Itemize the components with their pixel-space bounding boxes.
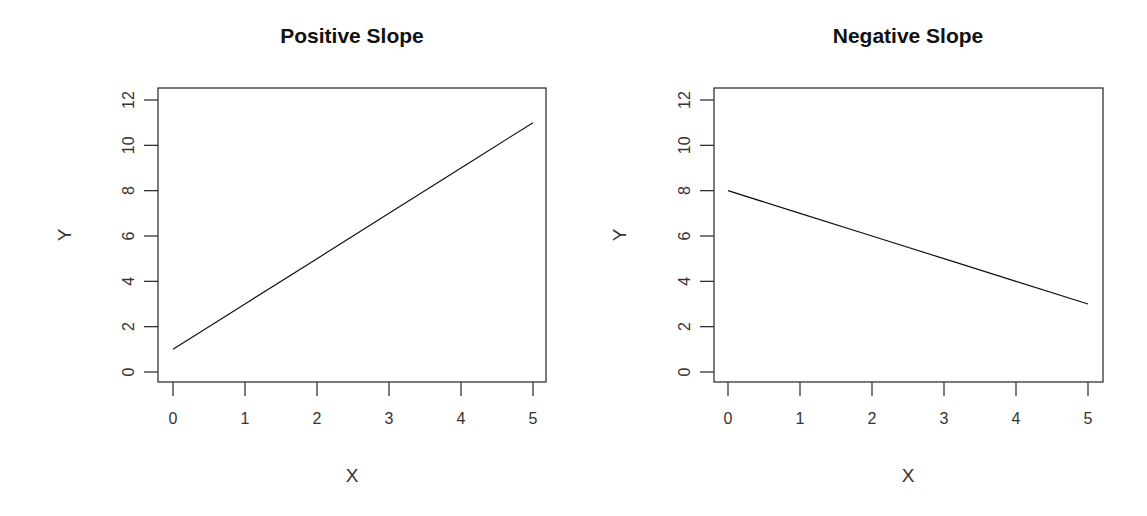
y-tick-label: 6 xyxy=(120,231,137,240)
y-tick-label: 8 xyxy=(120,186,137,195)
plot-panel-2: Negative Slope012345024681012XY xyxy=(609,24,1103,486)
y-tick-label: 0 xyxy=(120,367,137,376)
plot-frame xyxy=(714,88,1103,382)
y-tick-label: 2 xyxy=(120,322,137,331)
x-tick-label: 0 xyxy=(169,410,178,427)
y-tick-label: 10 xyxy=(120,136,137,154)
y-axis: 024681012 xyxy=(120,91,158,376)
x-tick-label: 0 xyxy=(724,410,733,427)
y-tick-label: 8 xyxy=(676,186,693,195)
x-tick-label: 2 xyxy=(868,410,877,427)
y-tick-label: 12 xyxy=(120,91,137,109)
y-axis: 024681012 xyxy=(676,91,714,376)
y-tick-label: 10 xyxy=(676,136,693,154)
x-axis: 012345 xyxy=(724,382,1093,427)
plot-frame xyxy=(158,88,546,382)
x-tick-label: 1 xyxy=(241,410,250,427)
x-tick-label: 3 xyxy=(940,410,949,427)
data-line xyxy=(173,123,533,350)
x-tick-label: 4 xyxy=(457,410,466,427)
y-tick-label: 4 xyxy=(676,277,693,286)
y-tick-label: 0 xyxy=(676,367,693,376)
chart-title: Positive Slope xyxy=(280,24,424,47)
x-tick-label: 2 xyxy=(313,410,322,427)
chart-canvas: Positive Slope012345024681012XYNegative … xyxy=(0,0,1147,516)
y-tick-label: 12 xyxy=(676,91,693,109)
y-tick-label: 4 xyxy=(120,277,137,286)
y-axis-label: Y xyxy=(609,228,630,241)
y-tick-label: 2 xyxy=(676,322,693,331)
x-tick-label: 4 xyxy=(1012,410,1021,427)
data-line xyxy=(728,191,1088,304)
chart-title: Negative Slope xyxy=(833,24,984,47)
x-axis-label: X xyxy=(902,465,915,486)
y-axis-label: Y xyxy=(54,228,75,241)
plot-panel-1: Positive Slope012345024681012XY xyxy=(54,24,546,486)
x-tick-label: 5 xyxy=(1084,410,1093,427)
x-tick-label: 5 xyxy=(529,410,538,427)
x-tick-label: 1 xyxy=(796,410,805,427)
y-tick-label: 6 xyxy=(676,231,693,240)
x-tick-label: 3 xyxy=(385,410,394,427)
x-axis-label: X xyxy=(346,465,359,486)
x-axis: 012345 xyxy=(169,382,538,427)
